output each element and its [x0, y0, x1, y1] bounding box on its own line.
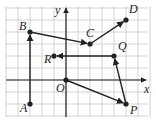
point-label-R: R — [43, 52, 52, 66]
point-label-O: O — [56, 81, 65, 95]
grid — [6, 6, 150, 117]
vector-BC — [30, 32, 87, 43]
vector-PQ — [115, 59, 126, 104]
point-D — [123, 17, 128, 22]
vector-diagram: ABCDOPQR x y — [0, 0, 156, 125]
point-B — [27, 29, 32, 34]
point-label-P: P — [129, 103, 138, 117]
point-label-C: C — [86, 26, 95, 40]
y-axis-label: y — [54, 3, 61, 17]
point-label-A: A — [19, 101, 28, 115]
point-label-Q: Q — [118, 39, 127, 53]
point-Q — [111, 53, 116, 58]
points: ABCDOPQR — [19, 2, 138, 117]
point-label-D: D — [128, 2, 138, 16]
x-axis-label: x — [143, 82, 150, 96]
point-label-B: B — [19, 19, 27, 33]
point-R — [51, 53, 56, 58]
point-C — [87, 41, 92, 46]
point-A — [27, 101, 32, 106]
vector-OP — [66, 80, 123, 103]
point-P — [123, 101, 128, 106]
